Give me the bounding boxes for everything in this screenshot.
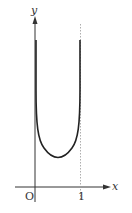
y-axis-arrow-icon bbox=[33, 16, 38, 24]
curve bbox=[36, 40, 80, 158]
y-axis-label: y bbox=[31, 5, 37, 16]
x-axis-label: x bbox=[112, 181, 118, 192]
x-axis-arrow-icon bbox=[103, 185, 111, 190]
function-graph: y x O 1 bbox=[0, 0, 132, 213]
tick-label-1: 1 bbox=[78, 191, 85, 202]
origin-label: O bbox=[25, 191, 34, 202]
